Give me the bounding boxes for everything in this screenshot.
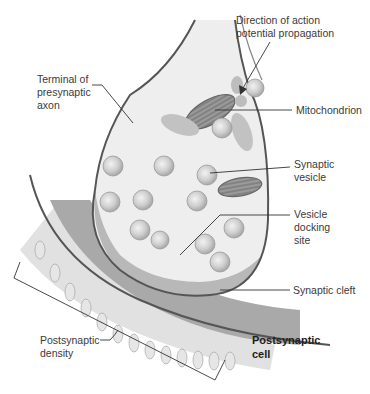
label-synaptic-vesicle: Synaptic vesicle: [294, 158, 334, 184]
label-synaptic-cleft: Synaptic cleft: [293, 284, 355, 297]
label-vesicle-docking-site: Vesicle docking site: [294, 208, 330, 247]
label-mitochondrion: Mitochondrion: [296, 104, 362, 117]
presynaptic-terminal: [93, 15, 268, 296]
label-direction-of-propagation: Direction of action potential propagatio…: [236, 14, 334, 40]
label-presynaptic-terminal: Terminal of presynaptic axon: [37, 73, 91, 112]
label-postsynaptic-cell: Postsynaptic cell: [252, 333, 320, 361]
label-postsynaptic-density: Postsynaptic density: [40, 334, 100, 360]
